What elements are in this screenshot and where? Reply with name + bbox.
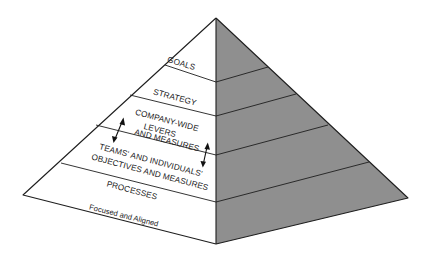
pyramid-right-face [216,18,408,244]
pyramid-diagram: GOALS STRATEGY COMPANY-WIDE LEVERS AND M… [0,0,429,258]
